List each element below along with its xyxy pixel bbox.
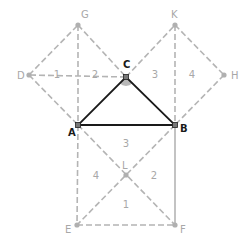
region-label: 4 — [189, 69, 195, 80]
segment-DA — [29, 75, 78, 125]
segment-GC — [78, 25, 126, 77]
point-label-e: E — [65, 224, 71, 235]
point-e-marker — [74, 222, 79, 227]
region-labels: 12343421 — [54, 69, 195, 210]
segment-HB — [175, 75, 224, 125]
region-label: 2 — [151, 170, 157, 181]
point-label-f: F — [180, 224, 186, 235]
point-k-marker — [172, 22, 177, 27]
point-d-marker — [26, 72, 31, 77]
region-label: 1 — [54, 69, 60, 80]
point-l-marker — [123, 172, 128, 177]
point-g-marker — [75, 22, 80, 27]
region-label: 2 — [92, 69, 98, 80]
region-label: 4 — [93, 170, 99, 181]
point-label-g: G — [81, 9, 89, 20]
point-label-b: B — [180, 123, 188, 134]
segment-KH — [175, 25, 224, 75]
region-label: 1 — [123, 199, 129, 210]
segment-DG — [29, 25, 78, 75]
point-label-h: H — [231, 70, 239, 81]
pythagoras-dissection-diagram: ABCDGKHEFL 12343421 — [0, 0, 247, 243]
point-label-d: D — [17, 70, 25, 81]
point-h-marker — [221, 72, 226, 77]
point-label-k: K — [171, 9, 178, 20]
point-b-marker — [173, 123, 178, 128]
region-label: 3 — [123, 138, 129, 149]
segment-AE — [77, 125, 78, 225]
point-c-marker — [124, 75, 129, 80]
point-f-marker — [172, 222, 177, 227]
point-label-c: C — [123, 59, 130, 70]
region-label: 3 — [152, 69, 158, 80]
diagram-canvas: ABCDGKHEFL 12343421 — [0, 0, 247, 243]
segment-CK — [126, 25, 175, 77]
point-label-l: L — [122, 160, 128, 171]
point-label-a: A — [68, 127, 76, 138]
point-a-marker — [76, 123, 81, 128]
